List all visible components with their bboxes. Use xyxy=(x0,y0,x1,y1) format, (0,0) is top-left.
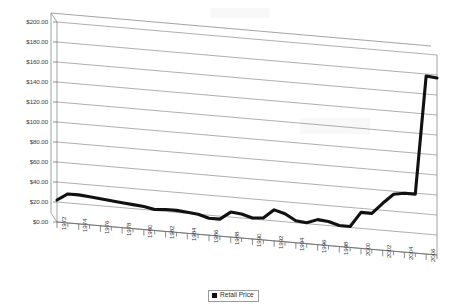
y-axis-tick-label: $160.00 xyxy=(0,58,48,65)
x-axis-ticks xyxy=(57,222,437,260)
chart-plot-area xyxy=(0,0,460,308)
retail-price-chart: $0.00$20.00$40.00$60.00$80.00$100.00$120… xyxy=(0,0,460,308)
y-axis-tick-label: $180.00 xyxy=(0,38,48,45)
x-axis-tick-label: 1976 xyxy=(103,220,110,233)
x-axis-tick-label: 1986 xyxy=(212,230,219,243)
gridlines xyxy=(57,22,437,255)
y-axis-tick-label: $20.00 xyxy=(0,198,48,205)
x-axis-tick-label: 2002 xyxy=(385,245,392,258)
x-axis-tick-label: 1974 xyxy=(81,219,88,232)
x-axis-tick-label: 1982 xyxy=(168,226,175,239)
x-axis-tick-label: 2000 xyxy=(364,243,371,256)
axis-lines xyxy=(57,222,437,255)
y-axis-tick-label: $0.00 xyxy=(0,218,48,225)
y-axis-tick-label: $40.00 xyxy=(0,178,48,185)
y-axis-tick-label: $200.00 xyxy=(0,18,48,25)
y-axis-tick-label: $60.00 xyxy=(0,158,48,165)
x-axis-tick-label: 1988 xyxy=(233,232,240,245)
x-axis-tick-label: 1998 xyxy=(342,241,349,254)
y-axis-tick-label: $100.00 xyxy=(0,118,48,125)
x-axis-tick-label: 1990 xyxy=(255,234,262,247)
x-axis-tick-label: 2004 xyxy=(407,247,414,260)
x-axis-tick-label: 1984 xyxy=(190,228,197,241)
x-axis-tick-label: 1972 xyxy=(60,217,67,230)
y-axis-tick-label: $140.00 xyxy=(0,78,48,85)
y-axis-tick-label: $120.00 xyxy=(0,98,48,105)
x-axis-tick-label: 1994 xyxy=(298,237,305,250)
legend-label-retail-price: Retail Price xyxy=(220,292,254,299)
x-axis-tick-label: 1992 xyxy=(277,235,284,248)
chart-walls xyxy=(51,13,437,255)
x-axis-tick-label: 1996 xyxy=(320,239,327,252)
x-axis-tick-label: 1978 xyxy=(125,222,132,235)
x-axis-tick-label: 1980 xyxy=(146,224,153,237)
chart-legend: Retail Price xyxy=(208,290,259,302)
y-axis-ticks xyxy=(53,22,57,222)
y-axis-tick-label: $80.00 xyxy=(0,138,48,145)
legend-swatch-retail-price xyxy=(212,293,217,298)
x-axis-tick-label: 2006 xyxy=(429,249,436,262)
